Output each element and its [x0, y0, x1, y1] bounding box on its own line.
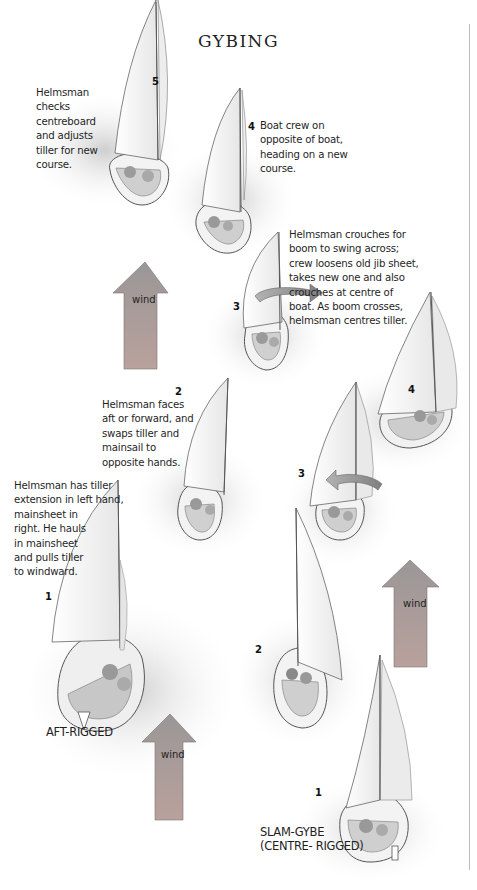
caption-aft-3: Helmsman crouches for boom to swing acro…: [289, 228, 419, 329]
caption-aft-1: Helmsman has tiller extension in left ha…: [14, 479, 123, 580]
step-number-aft-2: 2: [175, 386, 182, 397]
step-number-aft-1: 1: [45, 591, 52, 602]
step-number-aft-3: 3: [233, 301, 240, 312]
caption-aft-5: Helmsman checks centreboard and adjusts …: [36, 86, 98, 172]
slam-gybe-label: SLAM-GYBE (CENTRE- RIGGED): [260, 825, 363, 853]
step-number-slam-1: 1: [315, 787, 322, 798]
step-number-slam-3: 3: [298, 468, 305, 479]
page-title: GYBING: [0, 31, 477, 51]
caption-aft-2: Helmsman faces aft or forward, and swaps…: [102, 398, 193, 470]
wind-label-right: wind: [403, 598, 427, 609]
wind-arrow-right: [382, 560, 439, 667]
step-number-slam-2: 2: [255, 644, 262, 655]
page-divider: [469, 24, 470, 870]
caption-aft-4: Boat crew on opposite of boat, heading o…: [260, 119, 348, 177]
step-number-slam-4: 4: [408, 384, 415, 395]
aft-rigged-label: AFT-RIGGED: [46, 725, 113, 739]
wind-label-bottom: wind: [161, 749, 185, 760]
wind-label-top-left: wind: [132, 294, 156, 305]
step-number-aft-4: 4: [248, 121, 255, 132]
step-number-aft-5: 5: [152, 76, 159, 87]
wind-arrow-top-left: [113, 262, 168, 369]
